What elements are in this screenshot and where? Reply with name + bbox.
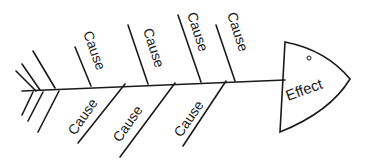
fish-eye-icon — [307, 56, 311, 60]
tail-line — [33, 51, 55, 88]
effect-label: Effect — [283, 75, 325, 104]
upper-cause-label: Cause — [224, 10, 252, 54]
fishbone-diagram: Cause Cause Cause Cause Cause Cause Caus… — [0, 0, 366, 166]
lower-cause-label: Cause — [109, 102, 145, 145]
tail-line — [22, 92, 33, 115]
fishbone-canvas: Cause Cause Cause Cause Cause Cause Caus… — [0, 0, 366, 166]
lower-cause-label: Cause — [64, 95, 100, 138]
upper-cause-label: Cause — [140, 26, 168, 70]
spine-line — [22, 80, 285, 91]
upper-cause-label: Cause — [80, 29, 109, 73]
